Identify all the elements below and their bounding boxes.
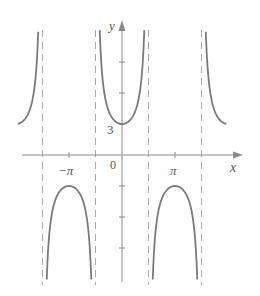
y-tick-label-3: 3 [107,122,114,137]
axes [22,20,243,282]
curve-branch [18,32,38,124]
x-axis-label: x [229,160,237,175]
x-axis-arrow-icon [233,152,243,159]
secant-graph: y x 0 3 −π π [0,0,260,296]
y-axis-arrow-icon [119,20,126,31]
x-tick-label-neg-pi: −π [58,163,74,178]
curve-branch [47,186,92,280]
curve-branch [206,32,226,124]
curve-branch [153,186,198,280]
x-tick-label-pi: π [170,163,177,178]
y-axis-label: y [107,18,115,33]
origin-label: 0 [110,158,116,172]
